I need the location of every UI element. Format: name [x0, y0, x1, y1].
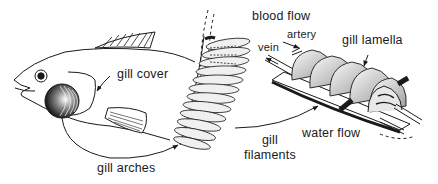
- gill-filaments-arrow: [235, 106, 318, 128]
- label-water-flow: water flow: [302, 127, 360, 140]
- label-blood-flow: blood flow: [252, 10, 310, 23]
- gill-arch-detail: [172, 10, 250, 152]
- label-gill-filaments-line2: filaments: [240, 149, 300, 162]
- fish-head: [14, 32, 195, 140]
- artery-arrow: [283, 42, 299, 48]
- label-gill-arches: gill arches: [97, 162, 155, 175]
- label-gill-filaments: gill filaments: [240, 134, 300, 161]
- label-vein: vein: [258, 42, 279, 53]
- gill-lamella-pointer: [364, 55, 368, 66]
- filament-detail: [265, 48, 422, 139]
- gill-cover-pointer: [97, 76, 110, 91]
- label-gill-lamella: gill lamella: [342, 34, 403, 47]
- dorsal-fin: [95, 32, 155, 48]
- label-artery: artery: [287, 29, 316, 40]
- label-gill-cover: gill cover: [117, 68, 168, 81]
- label-gill-filaments-line1: gill: [240, 134, 300, 147]
- diagram-artwork: [0, 0, 438, 184]
- gill-diagram: gill cover gill arches blood flow artery…: [0, 0, 438, 184]
